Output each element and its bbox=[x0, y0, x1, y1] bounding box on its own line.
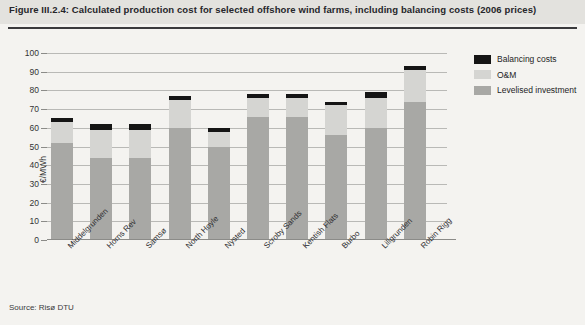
bar-column[interactable] bbox=[51, 53, 73, 240]
bar-segment bbox=[169, 128, 191, 240]
bar-segment bbox=[169, 100, 191, 128]
y-axis-tick-label: 30 bbox=[9, 179, 39, 189]
y-axis-tick-mark bbox=[41, 240, 47, 241]
y-axis-tick-mark bbox=[41, 184, 47, 185]
bar-segment bbox=[129, 130, 151, 158]
y-axis-tick-mark bbox=[41, 221, 47, 222]
x-axis-tick-label: Horns Rev bbox=[105, 244, 111, 250]
legend-item: O&M bbox=[474, 69, 576, 81]
figure-title: Figure III.2.4: Calculated production co… bbox=[9, 4, 536, 15]
bar-segment bbox=[51, 122, 73, 143]
bar-segment bbox=[325, 105, 347, 135]
y-axis-tick-label: 90 bbox=[9, 67, 39, 77]
y-axis-tick-mark bbox=[41, 109, 47, 110]
chart-legend: Balancing costsO&MLevelised investment bbox=[474, 53, 576, 100]
x-axis-tick-label: North Hoyle bbox=[184, 244, 190, 250]
bar-column[interactable] bbox=[365, 53, 387, 240]
x-axis-tick-label: Middelgrunden bbox=[66, 244, 72, 250]
bar-column[interactable] bbox=[404, 53, 426, 240]
bar-segment bbox=[404, 70, 426, 102]
y-axis-tick-label: 10 bbox=[9, 216, 39, 226]
bar-column[interactable] bbox=[247, 53, 269, 240]
header-divider bbox=[8, 27, 577, 29]
y-axis-tick-mark bbox=[41, 128, 47, 129]
y-axis-tick-label: 80 bbox=[9, 85, 39, 95]
x-axis-tick-label: Kentish Flats bbox=[301, 244, 307, 250]
y-axis-tick-mark bbox=[41, 203, 47, 204]
y-axis-tick-label: 100 bbox=[9, 48, 39, 58]
legend-label: Levelised investment bbox=[497, 85, 576, 95]
bar-segment bbox=[365, 98, 387, 128]
legend-swatch bbox=[474, 86, 491, 95]
x-axis-tick-label: Samsø bbox=[144, 244, 150, 250]
legend-swatch bbox=[474, 55, 491, 64]
bar-segment bbox=[247, 98, 269, 117]
bar-column[interactable] bbox=[208, 53, 230, 240]
y-axis-tick-mark bbox=[41, 72, 47, 73]
legend-label: O&M bbox=[497, 70, 516, 80]
bar-segment bbox=[51, 143, 73, 240]
x-axis-tick-label: Scroby Sands bbox=[262, 244, 268, 250]
bar-segment bbox=[365, 128, 387, 240]
x-axis-tick-label: Burbo bbox=[340, 244, 346, 250]
legend-label: Balancing costs bbox=[497, 54, 557, 64]
y-axis-tick-label: 0 bbox=[9, 235, 39, 245]
x-axis-tick-label: Lillgrunden bbox=[380, 244, 386, 250]
y-axis-tick-mark bbox=[41, 165, 47, 166]
y-axis-tick-label: 60 bbox=[9, 123, 39, 133]
y-axis-tick-label: 50 bbox=[9, 142, 39, 152]
bar-segment bbox=[90, 130, 112, 158]
figure-container: Figure III.2.4: Calculated production co… bbox=[0, 0, 585, 325]
legend-item: Balancing costs bbox=[474, 53, 576, 65]
bar-column[interactable] bbox=[325, 53, 347, 240]
y-axis-tick-label: 70 bbox=[9, 104, 39, 114]
bar-segment bbox=[208, 132, 230, 147]
legend-swatch bbox=[474, 70, 491, 79]
y-axis-tick-label: 20 bbox=[9, 198, 39, 208]
x-axis-tick-label: Nysted bbox=[223, 244, 229, 250]
bar-segment bbox=[286, 98, 308, 117]
x-axis-tick-label: Robin Rigg bbox=[419, 244, 425, 250]
bar-column[interactable] bbox=[169, 53, 191, 240]
bar-column[interactable] bbox=[129, 53, 151, 240]
bar-segment bbox=[247, 117, 269, 240]
y-axis-tick-mark bbox=[41, 53, 47, 54]
y-axis-tick-label: 40 bbox=[9, 160, 39, 170]
y-axis-tick-mark bbox=[41, 147, 47, 148]
source-note: Source: Risø DTU bbox=[9, 303, 74, 312]
legend-item: Levelised investment bbox=[474, 84, 576, 96]
y-axis-title: €/MWh bbox=[38, 156, 48, 183]
y-axis-tick-mark bbox=[41, 90, 47, 91]
